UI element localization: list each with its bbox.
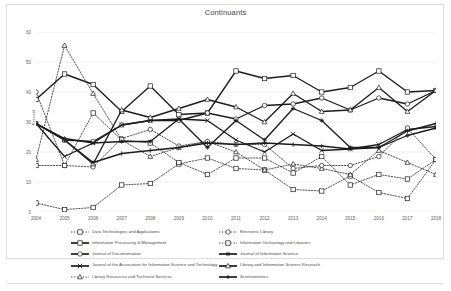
x-tick-2004: 2004: [22, 216, 50, 221]
x-tick-2016: 2016: [365, 216, 393, 221]
bottom-divider: [6, 283, 444, 284]
marker-square: [36, 97, 38, 101]
marker-circle: [348, 163, 352, 167]
x-tick-2009: 2009: [165, 216, 193, 221]
marker-square: [62, 207, 66, 211]
legend-label: Information Processing & Management: [92, 241, 166, 245]
marker-circle: [226, 230, 230, 234]
marker-square: [148, 181, 152, 185]
legend-swatch-icon: [218, 273, 238, 281]
x-tick-2013: 2013: [279, 216, 307, 221]
y-tick-50: 50: [15, 60, 31, 65]
x-tick-2017: 2017: [393, 216, 421, 221]
marker-square-open: [36, 163, 38, 167]
legend-item[interactable]: Scientometrics: [218, 272, 268, 282]
marker-square: [320, 189, 324, 193]
marker-square-open: [377, 172, 381, 176]
marker-triangle: [434, 172, 436, 176]
chart-legend: Data Technologies and ApplicationsInform…: [70, 227, 410, 285]
marker-square-open: [234, 156, 238, 160]
marker-square: [234, 166, 238, 170]
x-tick-2007: 2007: [108, 216, 136, 221]
legend-swatch-icon: [218, 262, 238, 270]
marker-square: [36, 201, 38, 205]
legend-item[interactable]: Library and Information Science Research: [218, 261, 320, 271]
marker-triangle: [205, 97, 210, 101]
marker-square-open: [348, 183, 352, 187]
marker-square: [177, 112, 181, 116]
marker-triangle: [291, 161, 296, 165]
legend-label: Information Technology and Libraries: [240, 241, 310, 245]
marker-circle: [36, 90, 38, 94]
legend-swatch-icon: [218, 228, 238, 236]
x-tick-2015: 2015: [336, 216, 364, 221]
y-tick-30: 30: [15, 120, 31, 125]
legend-label: Journal of Information Science: [240, 252, 298, 256]
series-2: [36, 88, 436, 143]
x-tick-2006: 2006: [79, 216, 107, 221]
series-canvas: [36, 32, 436, 212]
marker-triangle: [91, 91, 96, 95]
marker-circle: [405, 102, 409, 106]
legend-label: Journal of Documentation: [92, 252, 141, 256]
series-line: [36, 91, 436, 142]
legend-label: Scientometrics: [240, 275, 268, 279]
x-tick-2014: 2014: [308, 216, 336, 221]
marker-square-open: [226, 241, 230, 245]
legend-item[interactable]: Journal of Documentation: [70, 249, 141, 259]
marker-square: [291, 187, 295, 191]
legend-label: Electronic Library: [240, 230, 273, 234]
marker-square: [291, 73, 295, 77]
y-tick-60: 60: [15, 30, 31, 35]
marker-square: [78, 230, 82, 234]
marker-square-open: [205, 172, 209, 176]
legend-swatch-icon: [70, 250, 90, 258]
series-line: [36, 46, 436, 175]
marker-square-open: [262, 156, 266, 160]
legend-label: Journal of the Association for Informati…: [92, 263, 218, 267]
marker-square: [78, 241, 82, 245]
legend-swatch-icon: [70, 273, 90, 281]
marker-square: [234, 69, 238, 73]
legend-item[interactable]: Electronic Library: [218, 227, 273, 237]
marker-triangle: [62, 43, 67, 47]
series-1: [36, 69, 436, 117]
plot-area: [36, 32, 436, 212]
marker-circle: [205, 111, 209, 115]
x-tick-2005: 2005: [51, 216, 79, 221]
marker-square: [348, 85, 352, 89]
legend-item[interactable]: Information Processing & Management: [70, 238, 166, 248]
legend-item[interactable]: Library Resources and Technical Services: [70, 272, 172, 282]
marker-triangle: [36, 157, 38, 161]
y-axis-title: Per cent: [31, 98, 36, 138]
chart-screenshot: Continuants Per cent 6050403020100 20042…: [0, 0, 451, 291]
marker-circle: [262, 103, 266, 107]
marker-triangle: [291, 91, 296, 95]
marker-square: [405, 90, 409, 94]
marker-circle: [377, 154, 381, 158]
legend-label: Library and Information Science Research: [240, 263, 320, 267]
y-tick-10: 10: [15, 180, 31, 185]
marker-triangle: [78, 274, 83, 278]
legend-item[interactable]: Data Technologies and Applications: [70, 227, 160, 237]
legend-swatch-icon: [218, 250, 238, 258]
legend-item[interactable]: Journal of Information Science: [218, 249, 298, 259]
x-tick-2018: 2018: [422, 216, 450, 221]
x-tick-2011: 2011: [222, 216, 250, 221]
x-tick-2012: 2012: [251, 216, 279, 221]
marker-square-open: [320, 154, 324, 158]
marker-square-open: [62, 163, 66, 167]
marker-square: [205, 156, 209, 160]
legend-item[interactable]: Information Technology and Libraries: [218, 238, 310, 248]
legend-swatch-icon: [70, 228, 90, 236]
marker-circle: [291, 166, 295, 170]
marker-square-open: [91, 111, 95, 115]
legend-swatch-icon: [218, 239, 238, 247]
y-tick-20: 20: [15, 150, 31, 155]
y-tick-40: 40: [15, 90, 31, 95]
legend-item[interactable]: Journal of the Association for Informati…: [70, 261, 218, 271]
marker-square: [320, 90, 324, 94]
marker-square: [262, 76, 266, 80]
marker-square: [377, 69, 381, 73]
marker-circle: [320, 163, 324, 167]
